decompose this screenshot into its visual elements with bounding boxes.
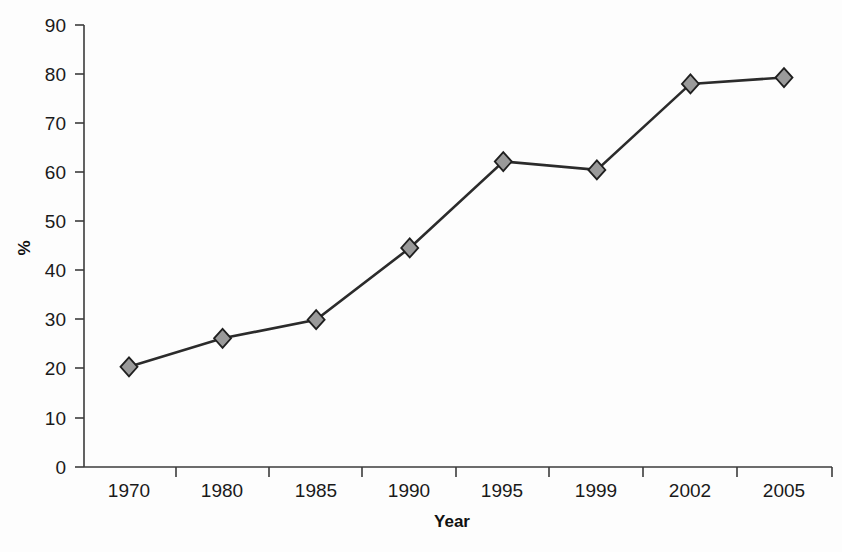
data-point-1985: [308, 310, 325, 329]
data-point-2005: [776, 68, 793, 87]
x-tick-labels: 1970 1980 1985 1990 1995 1999 2002 2005: [108, 480, 805, 501]
x-tick-label-1990: 1990: [388, 480, 430, 501]
y-tick-label-70: 70: [45, 113, 66, 134]
x-tick-label-1980: 1980: [201, 480, 243, 501]
y-tick-label-80: 80: [45, 64, 66, 85]
y-tick-label-50: 50: [45, 211, 66, 232]
chart-container: % 90 80 70 60 50 40: [0, 0, 842, 552]
line-chart: % 90 80 70 60 50 40: [0, 0, 842, 552]
y-tick-label-0: 0: [55, 457, 66, 478]
x-tick-label-2005: 2005: [763, 480, 805, 501]
x-axis-title: Year: [434, 512, 470, 531]
y-tick-label-40: 40: [45, 260, 66, 281]
x-tick-group: [176, 467, 832, 477]
series-markers: [121, 68, 793, 376]
y-tick-labels: 90 80 70 60 50 40 30 20 10 0: [45, 15, 66, 478]
x-tick-label-1995: 1995: [481, 480, 523, 501]
x-tick-label-1999: 1999: [575, 480, 617, 501]
y-tick-label-30: 30: [45, 309, 66, 330]
y-tick-label-90: 90: [45, 15, 66, 36]
x-tick-label-1985: 1985: [295, 480, 337, 501]
y-tick-label-10: 10: [45, 408, 66, 429]
y-tick-label-60: 60: [45, 162, 66, 183]
y-axis: 90 80 70 60 50 40 30 20 10 0: [45, 15, 84, 478]
data-series: [121, 68, 793, 376]
data-point-1980: [214, 329, 231, 348]
x-axis: 1970 1980 1985 1990 1995 1999 2002 2005 …: [84, 467, 832, 531]
series-line: [129, 78, 784, 367]
y-tick-group: [75, 25, 84, 467]
x-tick-label-2002: 2002: [669, 480, 711, 501]
x-tick-label-1970: 1970: [108, 480, 150, 501]
y-tick-label-20: 20: [45, 358, 66, 379]
data-point-1970: [121, 357, 138, 376]
y-axis-title: %: [15, 240, 34, 255]
